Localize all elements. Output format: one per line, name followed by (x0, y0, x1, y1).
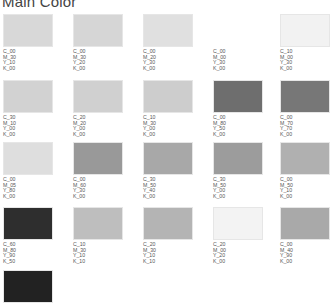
color-swatch-item: C_60M_80Y_90K_50 (3, 207, 55, 264)
color-swatch (143, 80, 193, 113)
color-swatch (213, 207, 263, 240)
color-swatch-item: C_20M_20Y_00K_00 (73, 80, 125, 137)
cmyk-labels: C_00M_70Y_70K_00 (280, 115, 332, 137)
cmyk-labels: C_30M_10Y_00K_00 (3, 115, 55, 137)
color-swatch-item: C_00M_80Y_50K_00 (213, 80, 265, 137)
color-swatch (3, 207, 53, 240)
cmyk-value-k: K_00 (143, 194, 195, 200)
color-swatch (3, 142, 53, 175)
color-swatch (3, 270, 53, 303)
cmyk-value-k: K_00 (280, 259, 332, 265)
cmyk-labels: C_00M_40Y_90K_00 (280, 242, 332, 264)
cmyk-value-k: K_00 (143, 132, 195, 138)
color-swatch-item: C_10M_30Y_10K_10 (73, 207, 125, 264)
cmyk-value-k: K_00 (3, 66, 55, 72)
color-swatch-item: C_00M_50Y_10K_00 (280, 142, 332, 199)
color-swatch-item: C_20M_30Y_10K_10 (143, 207, 195, 264)
color-swatch (3, 80, 53, 113)
color-swatch-item: C_00M_40Y_90K_00 (280, 207, 332, 264)
cmyk-value-k: K_00 (213, 132, 265, 138)
cmyk-labels: C_60M_80Y_90K_50 (3, 242, 55, 264)
cmyk-labels: C_10M_00Y_30K_00 (280, 49, 332, 71)
cmyk-value-k: K_00 (213, 66, 265, 72)
color-swatch (213, 142, 263, 175)
color-swatch (280, 80, 330, 113)
color-swatch (280, 14, 330, 47)
cmyk-value-k: K_10 (73, 259, 125, 265)
color-swatch-item: C_00M_30Y_10K_00 (3, 14, 55, 71)
color-swatch-item: C_00M_00Y_30K_00 (213, 14, 265, 71)
color-swatch-item: C_30M_10Y_00K_00 (3, 80, 55, 137)
cmyk-labels: C_10M_30Y_00K_00 (143, 115, 195, 137)
cmyk-value-k: K_00 (3, 194, 55, 200)
cmyk-labels: C_00M_00Y_30K_00 (213, 49, 265, 71)
cmyk-value-k: K_10 (143, 259, 195, 265)
page-title: Main Color (2, 0, 77, 10)
color-swatch (73, 207, 123, 240)
color-swatch-item: C_00M_20Y_30K_00 (143, 14, 195, 71)
color-swatch (143, 142, 193, 175)
color-swatch (143, 207, 193, 240)
color-swatch-item: C_20M_00Y_20K_00 (213, 207, 265, 264)
color-swatch-item: C_10M_30Y_00K_00 (143, 80, 195, 137)
cmyk-value-k: K_00 (3, 132, 55, 138)
color-swatch-item: C_00M_30Y_20K_00 (73, 14, 125, 71)
cmyk-labels: C_00M_05Y_80K_00 (3, 177, 55, 199)
cmyk-labels: C_10M_30Y_10K_10 (73, 242, 125, 264)
color-swatch-item (3, 270, 55, 305)
color-swatch (213, 80, 263, 113)
cmyk-value-k: K_00 (280, 66, 332, 72)
cmyk-labels: C_20M_00Y_20K_00 (213, 242, 265, 264)
cmyk-value-k: K_00 (73, 132, 125, 138)
color-swatch-item: C_30M_50Y_00K_00 (213, 142, 265, 199)
cmyk-labels: C_00M_30Y_10K_00 (3, 49, 55, 71)
cmyk-value-k: K_00 (280, 194, 332, 200)
color-swatch (73, 80, 123, 113)
color-swatch (280, 142, 330, 175)
color-swatch-item: C_00M_70Y_70K_00 (280, 80, 332, 137)
cmyk-labels: C_00M_20Y_30K_00 (143, 49, 195, 71)
cmyk-labels: C_00M_80Y_50K_00 (213, 115, 265, 137)
color-swatch (73, 14, 123, 47)
cmyk-labels: C_20M_20Y_00K_00 (73, 115, 125, 137)
color-swatch-item: C_00M_60Y_30K_00 (73, 142, 125, 199)
cmyk-labels: C_00M_50Y_10K_00 (280, 177, 332, 199)
color-swatch-item: C_10M_00Y_30K_00 (280, 14, 332, 71)
cmyk-value-k: K_00 (213, 194, 265, 200)
cmyk-labels: C_20M_30Y_10K_10 (143, 242, 195, 264)
cmyk-labels: C_00M_60Y_30K_00 (73, 177, 125, 199)
color-swatch (3, 14, 53, 47)
cmyk-value-k: K_00 (213, 259, 265, 265)
cmyk-labels: C_30M_50Y_40K_00 (143, 177, 195, 199)
color-swatch-item: C_30M_50Y_40K_00 (143, 142, 195, 199)
color-swatch (213, 14, 263, 47)
color-swatch-item: C_00M_05Y_80K_00 (3, 142, 55, 199)
color-swatch (73, 142, 123, 175)
color-swatch (143, 14, 193, 47)
cmyk-labels: C_30M_50Y_00K_00 (213, 177, 265, 199)
color-swatch (280, 207, 330, 240)
cmyk-labels: C_00M_30Y_20K_00 (73, 49, 125, 71)
cmyk-value-k: K_00 (73, 194, 125, 200)
cmyk-value-k: K_00 (143, 66, 195, 72)
cmyk-value-k: K_00 (73, 66, 125, 72)
cmyk-value-k: K_00 (280, 132, 332, 138)
cmyk-value-k: K_50 (3, 259, 55, 265)
